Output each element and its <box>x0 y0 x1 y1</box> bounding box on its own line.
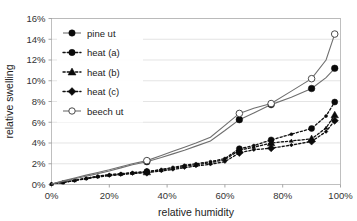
data-point-marker <box>309 125 315 131</box>
data-point-marker <box>331 65 338 72</box>
y-tick-label: 2% <box>32 158 46 169</box>
y-tick-label: 4% <box>32 137 46 148</box>
y-tick-label: 12% <box>26 54 46 65</box>
legend-item-label: heat (a) <box>87 47 120 58</box>
data-point-marker <box>331 31 338 38</box>
x-tick-label: 80% <box>273 190 293 201</box>
y-tick-label: 14% <box>26 34 46 45</box>
y-tick-label: 16% <box>26 13 46 24</box>
data-point-marker <box>308 75 315 82</box>
y-tick-label: 6% <box>32 117 46 128</box>
legend-item-label: beech ut <box>87 106 124 117</box>
x-tick-label: 0% <box>45 190 59 201</box>
chart-container: 0%2%4%6%8%10%12%14%16% 0%20%40%60%80%100… <box>0 0 357 221</box>
chart-background <box>0 0 357 221</box>
y-axis-title: relative swelling <box>3 64 15 138</box>
y-tick-label: 0% <box>32 179 46 190</box>
data-point-marker <box>290 133 293 136</box>
legend-item-label: pine ut <box>87 28 116 39</box>
data-point-marker <box>69 30 75 36</box>
relative-swelling-line-chart: 0%2%4%6%8%10%12%14%16% 0%20%40%60%80%100… <box>0 0 357 221</box>
data-point-marker <box>236 110 243 117</box>
x-tick-label: 20% <box>100 190 120 201</box>
legend-item-label: heat (c) <box>87 86 119 97</box>
x-tick-label: 40% <box>158 190 178 201</box>
data-point-marker <box>308 85 315 92</box>
data-point-marker <box>325 115 328 118</box>
x-axis-title: relative humidity <box>158 206 235 218</box>
chart-legend: pine utheat (a)heat (b)heat (c)beech ut <box>57 21 143 123</box>
data-point-marker <box>69 108 75 114</box>
data-point-marker <box>236 116 243 123</box>
x-tick-label: 100% <box>328 190 353 201</box>
data-point-marker <box>144 157 151 164</box>
data-point-marker <box>268 100 275 107</box>
y-tick-label: 8% <box>32 96 46 107</box>
x-tick-label: 60% <box>215 190 235 201</box>
data-point-marker <box>332 99 338 105</box>
legend-item-label: heat (b) <box>87 67 120 78</box>
data-point-marker <box>69 49 75 55</box>
y-tick-label: 10% <box>26 75 46 86</box>
